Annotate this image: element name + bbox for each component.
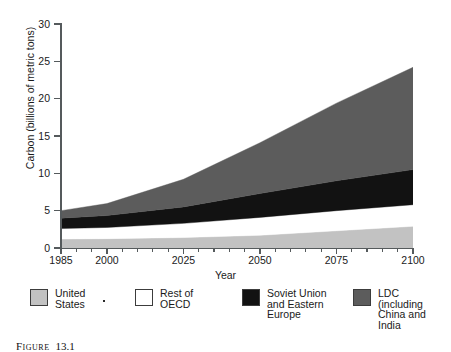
legend-label-rest-of-oecd: Rest of OECD <box>160 288 193 309</box>
y-tick <box>54 98 61 99</box>
legend-label-soviet-union: Soviet Union and Eastern Europe <box>267 288 327 320</box>
legend-label-ldc: LDC (including China and India <box>378 288 426 330</box>
y-tick <box>54 173 61 174</box>
stacked-area-chart <box>61 24 413 248</box>
y-axis-title: Carbon (billions of metric tons) <box>24 0 36 198</box>
y-tick-label: 5 <box>0 205 50 215</box>
chart-plot-area <box>61 24 413 248</box>
legend-item-united-states[interactable]: United States <box>30 288 85 309</box>
x-tick-minor <box>229 248 230 252</box>
x-tick-minor <box>366 248 367 252</box>
x-tick-label: 2000 <box>85 255 129 266</box>
x-tick-minor <box>168 248 169 252</box>
legend-label-united-states: United States <box>55 288 85 309</box>
series-layer <box>61 67 413 248</box>
x-tick-minor <box>244 248 245 252</box>
x-tick-minor <box>305 248 306 252</box>
legend-swatch-soviet-union <box>242 289 260 306</box>
y-tick <box>54 23 61 24</box>
x-tick-minor <box>290 248 291 252</box>
x-tick-minor <box>213 248 214 252</box>
x-tick-label: 1985 <box>39 255 83 266</box>
x-tick-minor <box>91 248 92 252</box>
figure-caption: Figure13.1 <box>16 340 446 352</box>
x-tick-minor <box>198 248 199 252</box>
figure-caption-label: Figure <box>16 340 50 352</box>
legend-swatch-united-states <box>30 289 48 306</box>
x-tick-minor <box>397 248 398 252</box>
x-tick-minor <box>122 248 123 252</box>
x-axis-title: Year <box>0 269 451 281</box>
y-tick <box>54 135 61 136</box>
x-axis-line <box>60 248 413 250</box>
y-tick-label: 0 <box>0 243 50 253</box>
legend-item-rest-of-oecd[interactable]: Rest of OECD <box>135 288 193 309</box>
x-tick-label: 2100 <box>391 255 435 266</box>
chart-legend: United States Rest of OECD Soviet Union … <box>30 288 440 340</box>
y-tick <box>54 61 61 62</box>
x-tick-label: 2075 <box>314 255 358 266</box>
figure-caption-number: 13.1 <box>56 340 75 352</box>
x-tick-minor <box>382 248 383 252</box>
x-tick-minor <box>351 248 352 252</box>
x-tick-label: 2025 <box>161 255 205 266</box>
legend-item-ldc[interactable]: LDC (including China and India <box>353 288 426 330</box>
legend-swatch-rest-of-oecd <box>135 289 153 306</box>
x-tick-minor <box>152 248 153 252</box>
legend-separator-dot <box>103 300 105 302</box>
x-tick-minor <box>321 248 322 252</box>
legend-item-soviet-union[interactable]: Soviet Union and Eastern Europe <box>242 288 327 320</box>
x-tick-minor <box>76 248 77 252</box>
legend-swatch-ldc <box>353 289 371 306</box>
x-tick-label: 2050 <box>238 255 282 266</box>
y-tick <box>54 210 61 211</box>
x-tick-minor <box>275 248 276 252</box>
x-tick-minor <box>137 248 138 252</box>
